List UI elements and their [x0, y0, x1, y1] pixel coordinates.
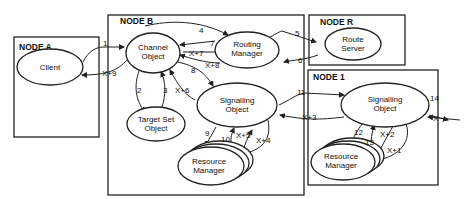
- edge-label-7: 7: [210, 39, 215, 48]
- edge-label-13: 13: [365, 138, 374, 147]
- edge-label-3: 3: [163, 86, 168, 95]
- edge-label-x6: X+6: [175, 86, 190, 95]
- route-server-label-1: Route: [342, 35, 364, 44]
- edge-label-x8: X+8: [205, 61, 220, 70]
- route-server-label-2: Server: [341, 44, 365, 53]
- signalling-b-label-1: Signalling: [220, 96, 255, 105]
- node-r-label: NODE R: [320, 17, 353, 27]
- resource-1-label-1: Resource: [324, 152, 359, 161]
- signalling-1-label-2: Object: [373, 104, 397, 113]
- signalling-b-label-2: Object: [225, 105, 249, 114]
- edge-label-x9: X+9: [102, 69, 117, 78]
- edge-label-8: 8: [191, 66, 196, 75]
- edge-label-x5: X+5: [236, 131, 251, 140]
- edge-label-x4: X+4: [256, 136, 271, 145]
- edge-1: [83, 47, 124, 62]
- routing-label-1: Routing: [233, 40, 261, 49]
- channel-label-2: Object: [141, 52, 165, 61]
- edge-label-10: 10: [221, 135, 230, 144]
- edge-label-x3: X+3: [302, 113, 317, 122]
- channel-label-1: Channel: [138, 43, 168, 52]
- system-diagram: NODE A NODE B NODE R NODE 1 Client Chann…: [0, 0, 467, 199]
- node-b-label: NODE B: [120, 16, 153, 26]
- client-label: Client: [40, 63, 61, 72]
- edge-label-11: 11: [297, 88, 306, 97]
- edge-11: [279, 93, 344, 105]
- node-1-label: NODE 1: [313, 72, 345, 82]
- resource-1-label-2: Manager: [325, 161, 357, 170]
- edge-label-4: 4: [199, 26, 204, 35]
- resource-b-label-2: Manager: [193, 166, 225, 175]
- edge-label-x2: X+2: [380, 130, 395, 139]
- edge-label-9: 9: [205, 129, 210, 138]
- edge-label-5: 5: [295, 29, 300, 38]
- target-set-label-2: Object: [144, 124, 168, 133]
- edge-label-14: 14: [430, 94, 439, 103]
- edge-label-6: 6: [298, 56, 303, 65]
- edge-label-x: X: [433, 114, 439, 123]
- edge-label-x1: X+1: [387, 146, 402, 155]
- edge-label-12: 12: [354, 128, 363, 137]
- signalling-1-label-1: Signalling: [368, 95, 403, 104]
- routing-label-2: Manager: [231, 49, 263, 58]
- resource-b-label-1: Resource: [192, 157, 227, 166]
- edge-label-1: 1: [103, 39, 108, 48]
- edge-label-x7: X+7: [189, 49, 204, 58]
- edge-label-2: 2: [137, 86, 142, 95]
- target-set-label-1: Target Set: [138, 115, 175, 124]
